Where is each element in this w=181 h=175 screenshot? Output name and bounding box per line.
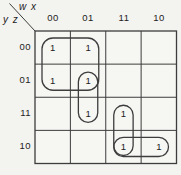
row-header-10: 10 [6, 140, 31, 154]
kmap-cell [106, 64, 141, 97]
kmap-cell [35, 130, 70, 163]
kmap-cell: 1 [70, 97, 105, 130]
kmap-cell: 1 [106, 130, 141, 163]
col-header-00: 00 [35, 12, 71, 26]
kmap-cell: 1 [70, 64, 105, 97]
col-header-11: 11 [106, 12, 142, 26]
row-header-01: 01 [6, 74, 31, 88]
kmap-cell [35, 97, 70, 130]
kmap-row-variables-label: y z [3, 14, 19, 25]
kmap-cells: 1 1 1 1 1 1 1 1 [35, 31, 177, 164]
kmap-column-variables-label: w x [19, 1, 37, 12]
kmap-cell: 1 [141, 130, 176, 163]
row-header-11: 11 [6, 107, 31, 121]
kmap-cell: 1 [35, 31, 70, 64]
col-header-10: 10 [141, 12, 177, 26]
kmap-cell [141, 64, 176, 97]
kmap-cell [70, 130, 105, 163]
kmap-cell: 1 [35, 64, 70, 97]
kmap-figure: w x y z 00 01 11 10 00 01 11 10 1 1 1 1 … [0, 0, 181, 175]
kmap-cell [141, 97, 176, 130]
row-header-00: 00 [6, 41, 31, 55]
kmap-cell: 1 [106, 97, 141, 130]
kmap-cell [141, 31, 176, 64]
kmap-cell [106, 31, 141, 64]
col-header-01: 01 [70, 12, 106, 26]
kmap-cell: 1 [70, 31, 105, 64]
